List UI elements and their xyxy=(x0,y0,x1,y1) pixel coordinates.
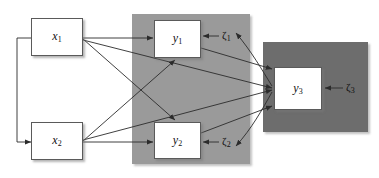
edge-covariance-x1-x2 xyxy=(17,38,31,142)
disturbance-zeta3-label: ζ3 xyxy=(346,82,355,95)
node-x1-label: x1 xyxy=(52,30,62,44)
node-x2-label: x2 xyxy=(52,134,62,148)
node-y1-label: y1 xyxy=(173,32,183,46)
path-diagram: x1 x2 y1 y2 y3 ζ1 ζ2 ζ3 xyxy=(0,0,379,178)
node-y3[interactable]: y3 xyxy=(274,67,322,110)
node-x2[interactable]: x2 xyxy=(31,122,83,160)
disturbance-zeta2-label: ζ2 xyxy=(222,136,231,149)
edge-y3-curve-to-zeta2 xyxy=(236,92,272,146)
disturbance-zeta1-label: ζ1 xyxy=(222,30,231,43)
node-y2-label: y2 xyxy=(173,134,183,148)
node-x1[interactable]: x1 xyxy=(31,18,83,56)
node-y2[interactable]: y2 xyxy=(154,122,201,159)
edge-y1-to-y3 xyxy=(201,48,272,69)
node-y1[interactable]: y1 xyxy=(154,20,201,58)
node-y3-label: y3 xyxy=(293,82,303,96)
